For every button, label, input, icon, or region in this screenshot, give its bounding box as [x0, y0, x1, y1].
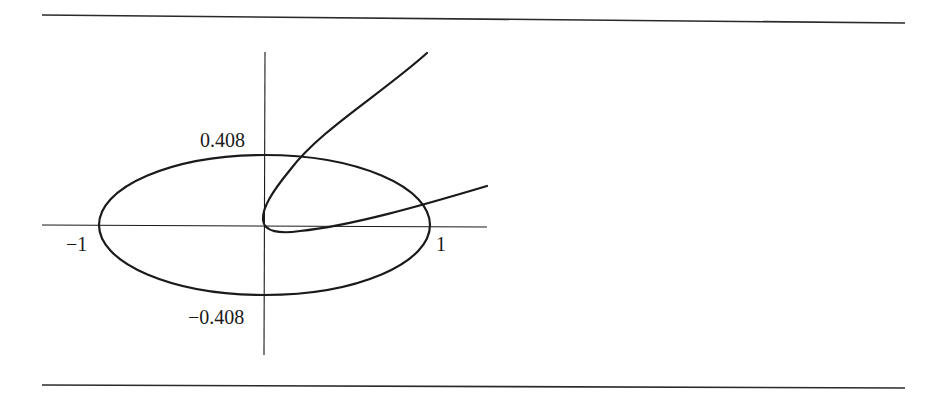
- y-axis: [264, 52, 265, 355]
- loop-curve: [263, 53, 487, 232]
- x-right-label: 1: [436, 233, 446, 255]
- x-left-label: −1: [66, 233, 87, 255]
- top-rule: [42, 15, 905, 23]
- bottom-rule: [42, 385, 905, 388]
- figure-canvas: 0.408 −0.408 −1 1: [0, 0, 937, 394]
- y-top-label: 0.408: [200, 129, 245, 151]
- y-bottom-label: −0.408: [188, 306, 244, 328]
